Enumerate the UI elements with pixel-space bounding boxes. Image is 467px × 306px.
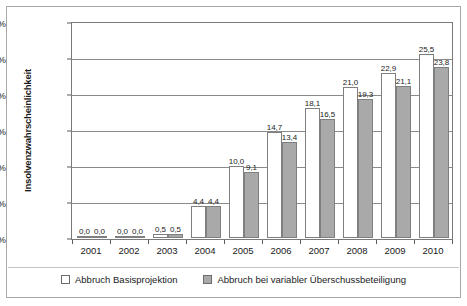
x-axis-tick-mark <box>72 240 73 244</box>
x-axis-tick-mark <box>300 240 301 244</box>
bar-group: 4,44,4 <box>187 24 225 238</box>
bar-group: 0,50,5 <box>149 24 187 238</box>
bar: 4,4 <box>191 206 206 238</box>
bar-value-label: 10,0 <box>229 157 245 166</box>
chart-figure: Insolvenzwahrscheinlichkeit 0 %5 %10 %15… <box>0 0 467 306</box>
bar-value-label: 18,1 <box>305 99 321 108</box>
y-axis-tick-label: 20 % <box>0 90 6 101</box>
bar-value-label: 0,0 <box>132 227 143 236</box>
x-axis-tick-mark <box>148 240 149 244</box>
y-axis-tick-label: 5 % <box>0 198 6 209</box>
x-axis-tick-mark <box>338 240 339 244</box>
legend-item[interactable]: Abbruch Basisprojektion <box>61 274 177 285</box>
x-axis-tick-label: 2010 <box>408 245 458 256</box>
y-axis-tick-label: 30 % <box>0 18 6 29</box>
bar: 14,7 <box>267 132 282 238</box>
plot-area: 0,00,00,00,00,50,54,44,410,09,114,713,41… <box>71 22 453 240</box>
bar-group: 25,523,8 <box>415 24 453 238</box>
bar: 0,0 <box>77 236 92 238</box>
bar-value-label: 16,5 <box>320 110 336 119</box>
bar-value-label: 22,9 <box>381 64 397 73</box>
bar: 10,0 <box>229 166 244 238</box>
bar-group: 10,09,1 <box>225 24 263 238</box>
x-axis-tick-mark <box>262 240 263 244</box>
bar-group: 0,00,0 <box>73 24 111 238</box>
legend-swatch-icon <box>203 275 212 284</box>
bar-value-label: 14,7 <box>267 123 283 132</box>
bar: 21,0 <box>343 87 358 238</box>
bar: 19,3 <box>358 99 373 238</box>
legend-swatch-icon <box>61 275 70 284</box>
bar-value-label: 0,0 <box>94 227 105 236</box>
bars-layer: 0,00,00,00,00,50,54,44,410,09,114,713,41… <box>73 24 451 238</box>
bar: 9,1 <box>244 172 259 238</box>
bar: 13,4 <box>282 142 297 238</box>
bar-value-label: 13,4 <box>282 133 298 142</box>
bar: 0,5 <box>168 234 183 238</box>
bar: 25,5 <box>419 54 434 238</box>
bar-group: 22,921,1 <box>377 24 415 238</box>
bar-value-label: 19,3 <box>358 90 374 99</box>
bar-group: 14,713,4 <box>263 24 301 238</box>
y-axis-tick-label: 10 % <box>0 162 6 173</box>
legend-label: Abbruch Basisprojektion <box>75 274 177 285</box>
chart-legend: Abbruch BasisprojektionAbbruch bei varia… <box>8 267 459 291</box>
legend-label: Abbruch bei variabler Überschussbeteilig… <box>217 274 406 285</box>
bar: 0,5 <box>153 234 168 238</box>
bar-value-label: 4,4 <box>208 197 219 206</box>
bar: 21,1 <box>396 86 411 238</box>
bar-value-label: 21,1 <box>396 77 412 86</box>
bar-value-label: 21,0 <box>343 78 359 87</box>
bar-group: 18,116,5 <box>301 24 339 238</box>
legend-item[interactable]: Abbruch bei variabler Überschussbeteilig… <box>203 274 406 285</box>
bar-value-label: 0,5 <box>170 225 181 234</box>
x-axis-tick-mark <box>452 240 453 244</box>
bar: 0,0 <box>130 236 145 238</box>
bar-value-label: 0,0 <box>117 227 128 236</box>
x-axis-tick-mark <box>414 240 415 244</box>
x-axis-tick-mark <box>110 240 111 244</box>
bar: 4,4 <box>206 206 221 238</box>
x-axis-tick-mark <box>224 240 225 244</box>
y-axis-title: Insolvenzwahrscheinlichkeit <box>22 31 33 231</box>
bar-value-label: 0,0 <box>79 227 90 236</box>
y-axis-tick-label: 15 % <box>0 126 6 137</box>
bar: 0,0 <box>92 236 107 238</box>
x-axis-tick-mark <box>186 240 187 244</box>
x-axis-tick-mark <box>376 240 377 244</box>
y-axis-tick-label: 0 % <box>0 234 6 245</box>
bar-value-label: 4,4 <box>193 197 204 206</box>
y-axis-tick-label: 25 % <box>0 54 6 65</box>
bar: 16,5 <box>320 119 335 238</box>
bar: 22,9 <box>381 73 396 238</box>
bar-group: 0,00,0 <box>111 24 149 238</box>
bar-value-label: 9,1 <box>246 163 257 172</box>
bar: 0,0 <box>115 236 130 238</box>
bar-group: 21,019,3 <box>339 24 377 238</box>
bar-value-label: 23,8 <box>434 58 450 67</box>
bar: 18,1 <box>305 108 320 238</box>
bar-value-label: 0,5 <box>155 225 166 234</box>
bar-value-label: 25,5 <box>419 45 435 54</box>
bar: 23,8 <box>434 67 449 238</box>
